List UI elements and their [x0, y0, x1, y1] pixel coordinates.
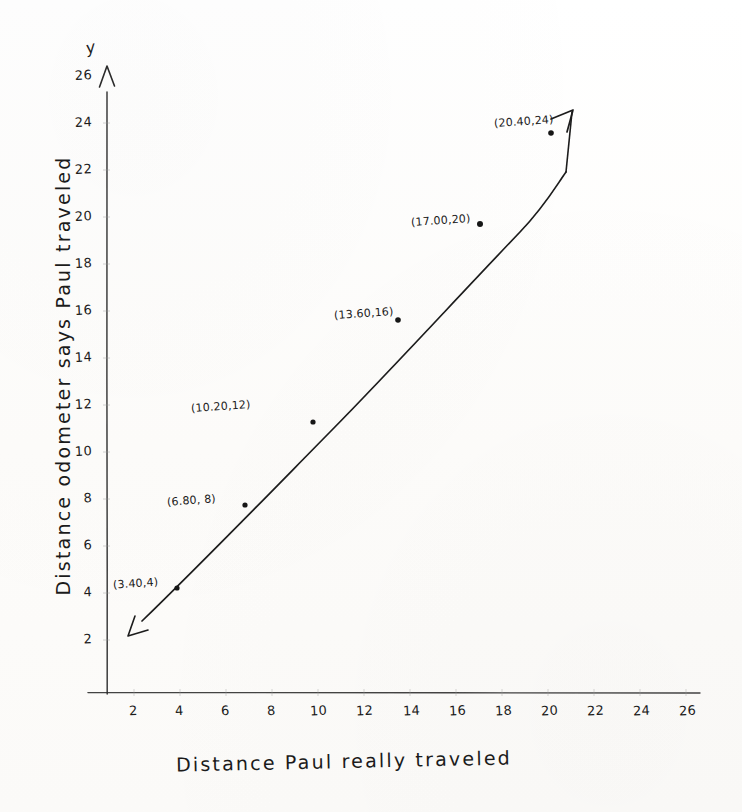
x-tick-label-22: 22: [587, 704, 605, 718]
data-point-marker: [174, 585, 179, 590]
y-tick-label-26: 26: [58, 68, 93, 83]
x-tick-label-2: 2: [129, 704, 138, 717]
chart-page: y 26 24 22 20 18 16 14 12 10 8 6 4 2 2 4…: [0, 0, 742, 812]
x-tick-label-8: 8: [267, 704, 276, 717]
y-axis-title: Distance odometer says Paul traveled: [54, 176, 73, 596]
y-tick-label-2: 2: [58, 632, 93, 647]
data-point-label-2: (6.80, 8): [167, 493, 217, 507]
x-tick-label-24: 24: [633, 704, 651, 718]
y-axis-arrowhead: [100, 66, 115, 87]
x-tick-label-20: 20: [541, 704, 559, 718]
x-tick-label-12: 12: [356, 704, 374, 718]
hand-drawn-plot: [0, 0, 742, 812]
y-axis-line: [107, 92, 108, 694]
x-tick-label-18: 18: [495, 704, 513, 718]
x-tick-label-16: 16: [449, 704, 467, 718]
data-point-marker: [242, 502, 247, 507]
trend-line: [142, 172, 566, 621]
x-tick-label-6: 6: [221, 704, 230, 717]
x-tick-label-4: 4: [175, 704, 184, 717]
data-point-marker: [477, 221, 483, 227]
data-point-label-1: (3.40,4): [113, 576, 159, 590]
x-tick-label-10: 10: [310, 704, 328, 718]
data-point-marker: [548, 130, 554, 136]
x-tick-label-14: 14: [403, 704, 421, 718]
data-point-marker: [395, 317, 401, 323]
line-arrow-shaft: [566, 112, 572, 172]
data-point-marker: [310, 419, 315, 424]
x-tick-label-26: 26: [679, 704, 697, 718]
y-tick-label-24: 24: [58, 115, 93, 130]
